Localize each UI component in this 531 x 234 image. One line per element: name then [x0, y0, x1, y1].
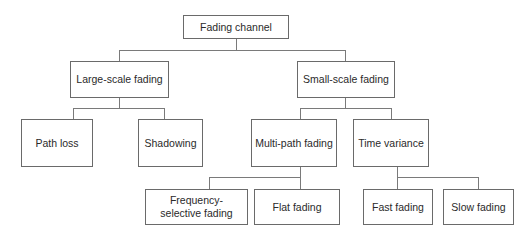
connector — [119, 97, 120, 108]
connector — [345, 97, 346, 108]
connector — [300, 108, 392, 109]
node-frequency-selective-fading: Frequency-selective fading — [145, 189, 248, 225]
connector — [345, 50, 346, 61]
node-large-scale-fading: Large-scale fading — [70, 61, 169, 98]
connector — [478, 177, 479, 189]
node-path-loss: Path loss — [21, 119, 93, 167]
connector — [119, 50, 120, 61]
node-shadowing: Shadowing — [138, 119, 203, 167]
node-slow-fading: Slow fading — [443, 189, 514, 225]
connector — [73, 108, 165, 109]
connector — [164, 108, 165, 119]
node-multi-path-fading: Multi-path fading — [251, 119, 337, 167]
connector — [300, 108, 301, 119]
connector — [300, 166, 301, 177]
node-fading-channel: Fading channel — [183, 15, 289, 39]
node-flat-fading: Flat fading — [254, 189, 340, 225]
node-time-variance: Time variance — [353, 119, 429, 167]
connector — [209, 177, 301, 178]
connector — [73, 108, 74, 119]
connector — [391, 108, 392, 119]
connector — [300, 177, 301, 189]
connector — [397, 177, 479, 178]
connector — [209, 177, 210, 189]
node-fast-fading: Fast fading — [363, 189, 433, 225]
connector — [236, 38, 237, 50]
node-small-scale-fading: Small-scale fading — [297, 61, 395, 98]
connector — [397, 166, 398, 177]
connector — [119, 50, 346, 51]
connector — [397, 177, 398, 189]
